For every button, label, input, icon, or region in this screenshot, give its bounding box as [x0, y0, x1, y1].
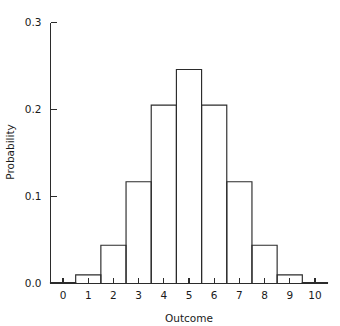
x-tick-label: 5	[186, 289, 193, 301]
x-tick-label: 4	[160, 289, 167, 301]
x-tick-label: 1	[85, 289, 92, 301]
x-tick-label: 8	[261, 289, 268, 301]
x-tick-label: 10	[308, 289, 321, 301]
x-tick-label: 6	[211, 289, 218, 301]
x-tick-label: 2	[110, 289, 117, 301]
x-axis-title: Outcome	[165, 312, 213, 324]
x-tick-label: 3	[135, 289, 142, 301]
y-tick-label: 0.0	[25, 277, 42, 289]
y-tick-label: 0.1	[25, 190, 42, 202]
y-tick-label: 0.2	[25, 103, 42, 115]
x-tick-label: 9	[286, 289, 293, 301]
y-tick-label: 0.3	[25, 16, 42, 28]
chart-canvas: 0.00.10.20.3 012345678910 Probability Ou…	[0, 0, 340, 326]
x-tick-label: 7	[236, 289, 243, 301]
probability-histogram-chart: 0.00.10.20.3 012345678910 Probability Ou…	[0, 0, 340, 326]
y-axis-title: Probability	[4, 124, 16, 180]
x-tick-label: 0	[60, 289, 67, 301]
